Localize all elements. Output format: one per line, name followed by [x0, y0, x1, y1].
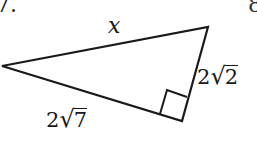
- hypotenuse-label: x: [108, 15, 120, 37]
- right-leg-radicand: 2: [225, 65, 238, 88]
- right-leg-label: 2√2: [197, 64, 238, 88]
- right-triangle: [2, 27, 208, 121]
- next-problem-number: 8: [248, 0, 257, 16]
- sqrt-symbol: √: [210, 64, 225, 88]
- right-leg-coefficient: 2: [197, 65, 210, 89]
- bottom-leg-coefficient: 2: [46, 108, 59, 132]
- sqrt-symbol: √: [59, 107, 74, 131]
- bottom-leg-radicand: 7: [74, 108, 87, 131]
- bottom-leg-label: 2√7: [46, 107, 87, 131]
- right-angle-marker: [160, 90, 187, 114]
- problem-number: 7.: [0, 0, 17, 16]
